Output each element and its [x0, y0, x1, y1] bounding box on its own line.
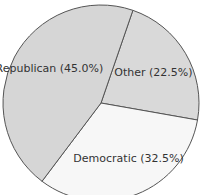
- slice-label-democratic: Democratic (32.5%): [73, 152, 183, 165]
- slice-label-other: Other (22.5%): [114, 66, 192, 79]
- pie-chart: Other (22.5%)Democratic (32.5%)Republica…: [0, 0, 201, 195]
- slice-label-republican: Republican (45.0%): [0, 62, 103, 75]
